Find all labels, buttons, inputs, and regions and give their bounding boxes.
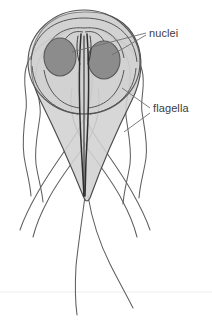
flagellum-caudal-left bbox=[75, 196, 85, 315]
label-nuclei: nuclei bbox=[149, 27, 178, 39]
figure-root: nuclei flagella bbox=[0, 0, 212, 321]
flagella-leader-lower bbox=[124, 113, 150, 132]
nucleus-left bbox=[44, 38, 76, 76]
giardia-diagram: nuclei flagella bbox=[0, 0, 212, 321]
flagellum-caudal-right bbox=[88, 196, 133, 308]
label-flagella: flagella bbox=[153, 102, 189, 114]
